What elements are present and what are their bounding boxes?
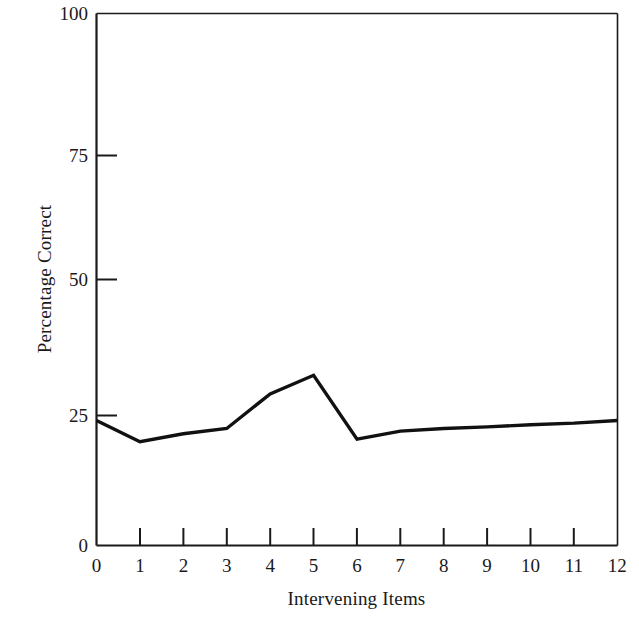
x-tick-label-1: 1 (120, 556, 160, 575)
x-tick-label-2: 2 (163, 556, 203, 575)
x-tick-label-12: 12 (597, 556, 637, 575)
x-tick-label-8: 8 (424, 556, 464, 575)
chart-figure: 100 75 50 25 0 0 1 2 3 4 5 6 7 8 9 10 11… (0, 0, 639, 630)
x-tick-label-5: 5 (294, 556, 334, 575)
x-tick-label-3: 3 (207, 556, 247, 575)
x-axis-title: Intervening Items (96, 588, 617, 610)
x-tick-label-10: 10 (511, 556, 551, 575)
x-axis-tick-labels: 0 1 2 3 4 5 6 7 8 9 10 11 12 (0, 0, 639, 630)
x-tick-label-4: 4 (250, 556, 290, 575)
x-tick-label-0: 0 (77, 556, 117, 575)
x-tick-label-9: 9 (467, 556, 507, 575)
x-tick-label-7: 7 (380, 556, 420, 575)
x-tick-label-6: 6 (337, 556, 377, 575)
x-tick-label-11: 11 (554, 556, 594, 575)
